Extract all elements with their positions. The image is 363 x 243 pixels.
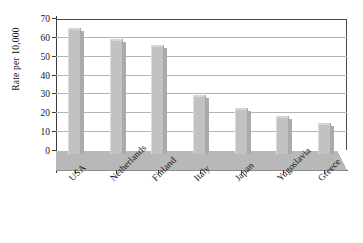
bar xyxy=(235,108,248,170)
bar-top-face xyxy=(69,28,80,30)
bar-chart-figure: Rate per 10,000 010203040506070 USANethe… xyxy=(0,0,363,243)
y-tick-label: 30 xyxy=(41,89,51,99)
y-tick-label: 0 xyxy=(45,146,50,156)
bar-body xyxy=(193,95,206,154)
y-axis-title: Rate per 10,000 xyxy=(11,0,21,119)
bar xyxy=(151,45,164,170)
bar-top-face xyxy=(236,108,247,110)
bar-side-face xyxy=(81,31,84,154)
bar-body xyxy=(318,123,331,154)
bar xyxy=(193,95,206,170)
bar-body xyxy=(151,45,164,154)
bar-side-face xyxy=(289,119,292,154)
y-tick-label: 60 xyxy=(41,33,51,43)
bar xyxy=(68,28,81,170)
y-tick-label: 20 xyxy=(41,108,51,118)
bar xyxy=(110,39,123,170)
y-tick-label: 50 xyxy=(41,52,51,62)
bar-body xyxy=(235,108,248,154)
bar-top-face xyxy=(152,45,163,47)
bar-top-face xyxy=(111,39,122,41)
bar-top-face xyxy=(319,123,330,125)
bar-side-face xyxy=(123,42,126,154)
bar-side-face xyxy=(164,48,167,154)
bar-body xyxy=(110,39,123,154)
bar-top-face xyxy=(277,116,288,118)
bar-side-face xyxy=(206,98,209,154)
bar-side-face xyxy=(331,126,334,154)
bar-top-face xyxy=(194,95,205,97)
bar-side-face xyxy=(248,111,251,154)
y-tick-label: 70 xyxy=(41,14,51,24)
y-tick-label: 40 xyxy=(41,71,51,81)
y-tick-label: 10 xyxy=(41,127,51,137)
bar-body xyxy=(276,116,289,154)
bar-body xyxy=(68,28,81,154)
